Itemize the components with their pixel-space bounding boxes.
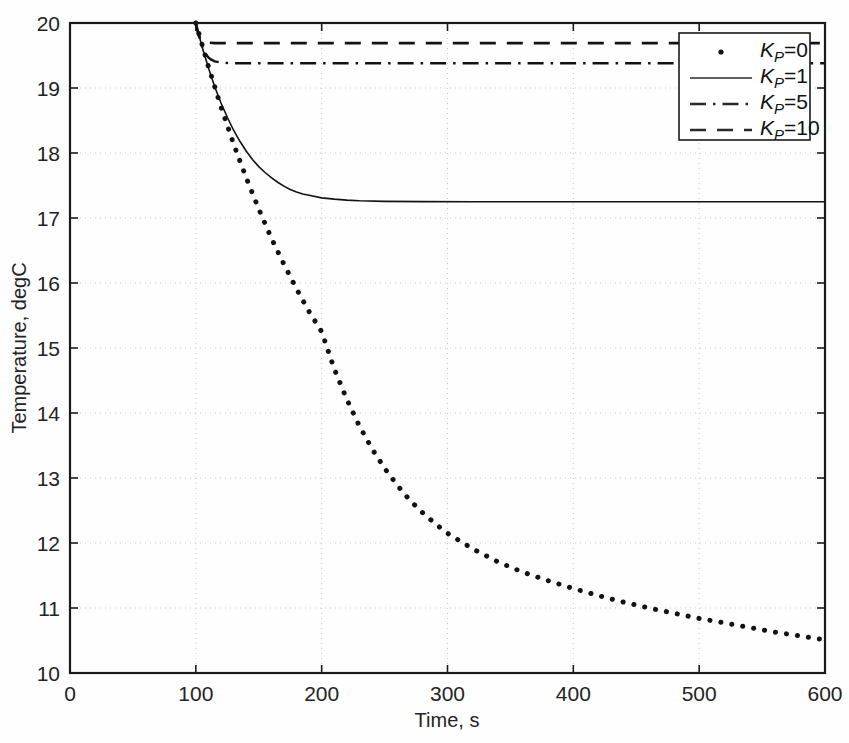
x-tick-label: 200 — [304, 682, 339, 705]
y-tick-label: 16 — [37, 272, 60, 295]
chart-figure: 0100200300400500600 10111213141516171819… — [0, 0, 849, 743]
x-tick-label: 500 — [682, 682, 717, 705]
x-tick-label: 600 — [807, 682, 842, 705]
legend-item-label[interactable]: KP=5 — [760, 90, 808, 117]
y-tick-label: 13 — [37, 467, 60, 490]
y-tick-label: 12 — [37, 532, 60, 555]
y-tick-label: 20 — [37, 12, 60, 35]
y-axis-title: Temperature, degC — [8, 262, 30, 433]
y-tick-label: 10 — [37, 662, 60, 685]
legend-marker-dot — [718, 49, 723, 54]
legend-item-label[interactable]: KP=0 — [760, 38, 808, 65]
legend[interactable]: KP=0KP=1KP=5KP=10 — [679, 33, 820, 143]
y-tick-label: 14 — [37, 402, 61, 425]
x-tick-label: 400 — [556, 682, 591, 705]
plot-canvas: 0100200300400500600 10111213141516171819… — [0, 0, 849, 743]
x-axis-title: Time, s — [415, 709, 480, 731]
y-tick-label: 19 — [37, 77, 60, 100]
y-tick-label: 17 — [37, 207, 60, 230]
x-tick-label: 100 — [178, 682, 213, 705]
x-tick-labels: 0100200300400500600 — [64, 682, 842, 705]
y-tick-label: 15 — [37, 337, 60, 360]
y-tick-label: 11 — [38, 597, 60, 620]
y-tick-labels: 1011121314151617181920 — [37, 12, 61, 685]
legend-item-label[interactable]: KP=1 — [760, 64, 808, 91]
y-tick-label: 18 — [37, 142, 60, 165]
x-tick-label: 0 — [64, 682, 76, 705]
legend-item-label[interactable]: KP=10 — [760, 116, 820, 143]
x-tick-label: 300 — [430, 682, 465, 705]
